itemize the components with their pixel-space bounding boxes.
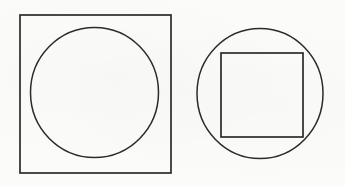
figure-right <box>197 29 323 159</box>
figure-left <box>20 15 171 173</box>
inner-square-right <box>221 53 303 137</box>
inner-circle-left <box>31 28 159 158</box>
outer-square-left <box>20 15 171 173</box>
geometry-drawing <box>0 0 345 187</box>
figure-canvas <box>0 0 345 187</box>
outer-circle-right <box>197 29 323 159</box>
